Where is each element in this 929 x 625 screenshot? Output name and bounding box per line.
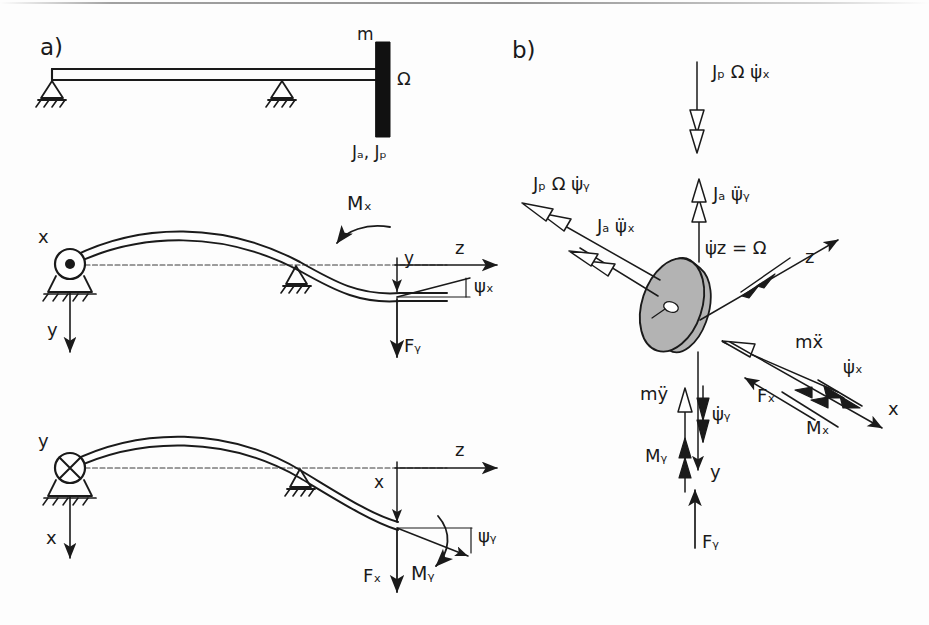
yz-plane-deflection: y x z x ψᵧ Fₓ Mᵧ — [38, 430, 497, 592]
label-spin-rate: ψ̇ᴢ = Ω — [705, 237, 767, 258]
label-axis-y: y — [710, 461, 721, 482]
vector-angular-rate-y — [697, 386, 709, 442]
axis-label-z: z — [455, 237, 464, 258]
panel-a-label: a) — [40, 34, 63, 60]
pin-support-mid — [266, 81, 296, 107]
axis-label-y-into: y — [38, 430, 49, 451]
label-axis-x: x — [888, 398, 899, 419]
rotor-disk-black — [376, 42, 390, 137]
label-reaction-force-x: Fₓ — [757, 385, 775, 406]
pin-support-mid-2 — [281, 266, 311, 293]
vector-gyroscopic-moment-top — [690, 62, 704, 153]
angle-label-psi-x: ψₓ — [474, 275, 494, 296]
label-inertia-moment-x: Jₐ ψ̈ₓ — [596, 215, 635, 236]
label-bending-moment-y: Mᵧ — [645, 445, 668, 466]
mass-label: m — [357, 24, 374, 44]
label-angular-rate-x: ψ̇ₓ — [843, 356, 863, 377]
moment-label-Mx: Mₓ — [347, 192, 372, 214]
free-body-diagram-disk: Jₚ Ω ψ̇ₓ Jₐ ψ̈ᵧ Jₚ Ω ψ̇ᵧ Jₐ ψ̈ₓ — [522, 61, 899, 552]
label-reaction-force-y: Fᵧ — [702, 531, 719, 552]
rotor-beam-schematic: m Ω Jₐ, Jₚ — [36, 24, 411, 162]
axis-label-z-2: z — [455, 439, 464, 460]
figure-svg: a) m Ω Jₐ, Jₚ — [0, 0, 929, 625]
axis-label-x-out: x — [38, 226, 49, 247]
force-label-Fx: Fₓ — [363, 565, 381, 586]
tip-axis-label-y: y — [404, 248, 414, 268]
label-gyroscopic-moment-left: Jₚ Ω ψ̇ᵧ — [532, 173, 590, 194]
label-angular-rate-y: ψ̇ᵧ — [712, 403, 731, 424]
spin-rate-label: Ω — [397, 68, 411, 89]
figure-canvas: a) m Ω Jₐ, Jₚ — [0, 0, 929, 625]
vector-bending-moment-y — [679, 438, 691, 492]
panel-b-label: b) — [512, 37, 536, 63]
label-inertia-moment-y: Jₐ ψ̈ᵧ — [712, 183, 750, 204]
gyroscopic-disk — [629, 250, 716, 360]
inertia-label: Jₐ, Jₚ — [351, 142, 387, 162]
moment-label-My: Mᵧ — [411, 562, 434, 584]
pin-support-left — [36, 81, 66, 107]
label-bending-moment-x: Mₓ — [806, 417, 830, 438]
xz-plane-deflection: x y z y ψₓ Fᵧ Mₓ — [38, 192, 497, 357]
label-inertia-force-x: mẍ — [795, 331, 824, 352]
angle-label-psi-y: ψᵧ — [478, 525, 497, 546]
vector-gyroscopic-moment-left — [522, 203, 660, 280]
label-inertia-force-y: mÿ — [640, 383, 669, 404]
tip-axis-label-x: x — [374, 472, 384, 492]
label-gyroscopic-moment-top: Jₚ Ω ψ̇ₓ — [711, 61, 770, 82]
force-label-Fy: Fᵧ — [404, 335, 421, 356]
vector-inertia-moment-y — [692, 179, 706, 262]
label-axis-z: z — [805, 246, 814, 267]
axis-label-y-down: y — [47, 319, 58, 340]
axis-label-x-down: x — [46, 527, 57, 548]
